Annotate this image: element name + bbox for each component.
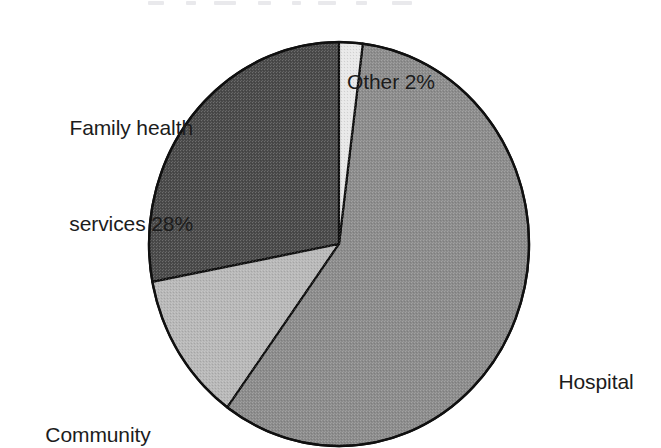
pie-label-family-line1: Family health <box>0 112 193 144</box>
pie-chart-page: Other 2% Family health services 28% Comm… <box>0 0 661 448</box>
pie-label-other: Other 2% <box>281 2 501 162</box>
pie-label-family-line2: services 28% <box>0 208 193 240</box>
pie-label-hospital-services: Hospital services 58% <box>531 302 661 448</box>
pie-label-hospital-line1: Hospital <box>531 366 661 398</box>
pie-label-family-health-services: Family health services 28% <box>0 48 193 304</box>
pie-label-community-health-services: Community health services 12% <box>0 355 196 448</box>
pie-chart-figure: Other 2% Family health services 28% Comm… <box>0 0 661 448</box>
pie-label-other-line1: Other 2% <box>281 66 501 98</box>
pie-label-community-line1: Community <box>0 419 196 448</box>
